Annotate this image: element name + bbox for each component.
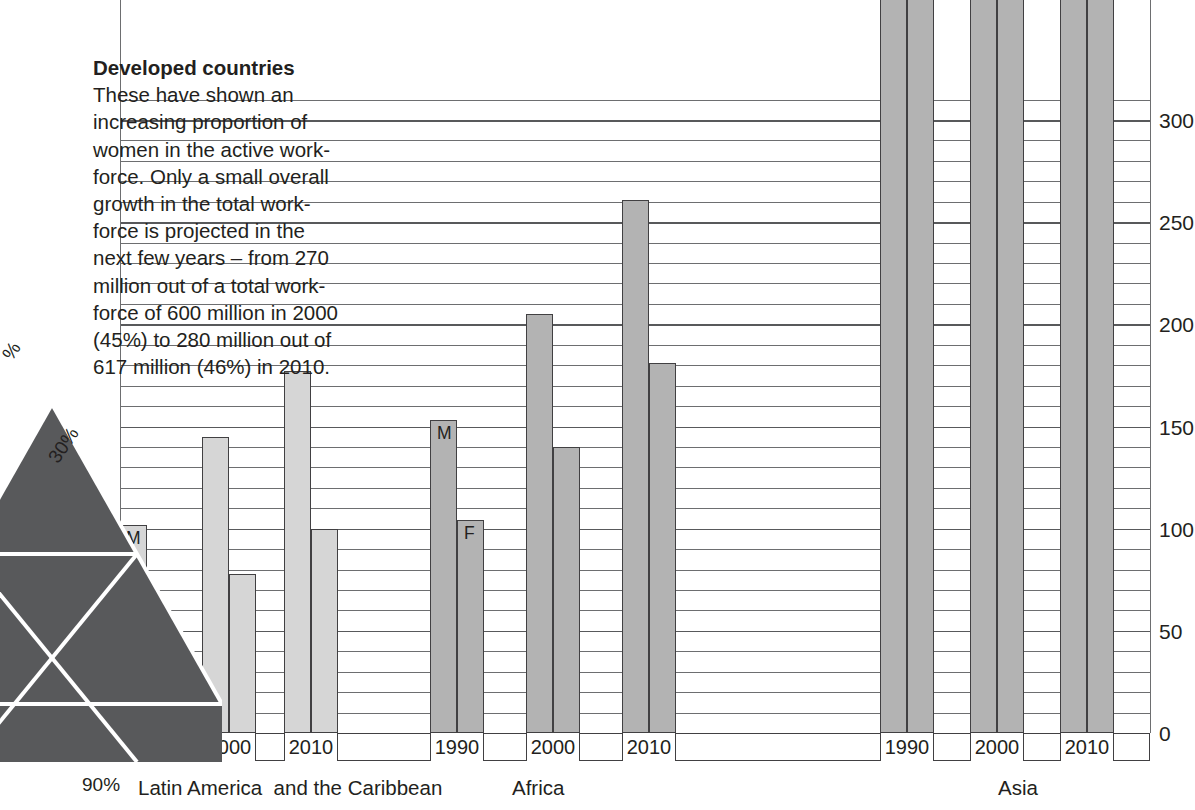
bar-f-1990: [907, 0, 934, 733]
y-tick-300: 300: [1159, 110, 1194, 131]
y-tick-100: 100: [1159, 519, 1194, 540]
bar-m-1990: [430, 420, 457, 733]
bar-f-2000: [997, 0, 1024, 733]
year-label-2000: 2000: [970, 733, 1024, 761]
annotation-heading: Developed countries: [93, 54, 361, 81]
year-label-1990: 1990: [430, 733, 484, 761]
bar-chart: MFMF 050100150200250300 1990200020101990…: [0, 0, 1195, 810]
y-tick-50: 50: [1159, 621, 1182, 642]
bar-f-2000: [229, 574, 256, 733]
year-label-1990: 1990: [880, 733, 934, 761]
bar-m-1990: [880, 0, 907, 733]
bar-f-2000: [553, 447, 580, 733]
group-caption-africa: Africa: [512, 776, 564, 800]
year-label-2000: 2000: [526, 733, 580, 761]
bar-f-2010: [311, 529, 338, 733]
annotation-developed-countries: Developed countries These have shown an …: [93, 54, 361, 380]
triangle-decoration: [0, 404, 222, 810]
series-label-female: F: [464, 525, 475, 543]
axis-frame-line: [1150, 0, 1151, 733]
bar-m-2000: [526, 314, 553, 733]
bar-f-2010: [649, 363, 676, 733]
y-tick-200: 200: [1159, 314, 1194, 335]
year-label-2010: 2010: [284, 733, 338, 761]
triangle-svg: [0, 404, 222, 810]
year-label-2010: 2010: [1060, 733, 1114, 761]
bar-m-2010: [284, 371, 311, 733]
group-caption-asia: Asia: [998, 776, 1038, 800]
bar-m-2010: [622, 200, 649, 733]
y-tick-0: 0: [1159, 723, 1171, 744]
bar-m-2000: [970, 0, 997, 733]
series-label-male: M: [437, 425, 452, 443]
y-tick-150: 150: [1159, 417, 1194, 438]
bar-f-2010: [1087, 0, 1114, 733]
y-tick-250: 250: [1159, 212, 1194, 233]
bar-f-1990: [457, 520, 484, 733]
year-label-2010: 2010: [622, 733, 676, 761]
bar-m-2010: [1060, 0, 1087, 733]
triangle-label-bottom: 90%: [82, 774, 120, 796]
annotation-body: These have shown an increasing proportio…: [93, 81, 361, 380]
